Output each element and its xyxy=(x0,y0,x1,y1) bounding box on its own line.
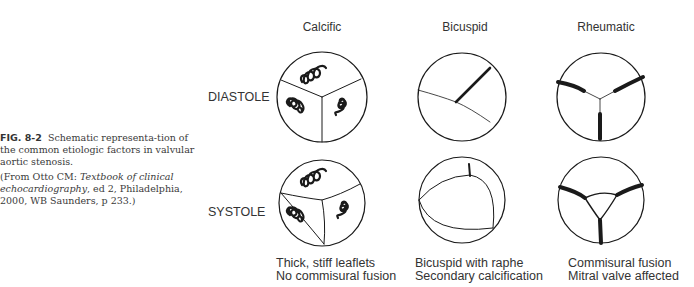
orifice-edge xyxy=(585,193,617,198)
calcification-nodule-icon xyxy=(337,202,347,219)
raphe-line xyxy=(456,68,490,102)
fused-commissure xyxy=(558,82,584,91)
valve-diagram xyxy=(0,0,694,287)
commissure-line xyxy=(322,79,361,97)
fused-commissure xyxy=(560,187,585,198)
fused-commissure xyxy=(615,77,643,91)
commissure-line xyxy=(600,91,615,99)
valve-bicuspid-diastole xyxy=(418,53,506,141)
calcification-nodule-icon xyxy=(335,99,345,116)
calcification-nodule-icon xyxy=(301,66,326,83)
leaflet-edge xyxy=(419,200,493,229)
valve-rheumatic-systole xyxy=(558,157,644,243)
valve-calcific-diastole xyxy=(277,52,367,142)
leaflet-edge xyxy=(281,184,360,200)
valve-rheumatic-diastole xyxy=(557,53,645,141)
calcification-nodule-icon xyxy=(301,169,326,186)
commissure-line xyxy=(584,91,600,99)
orifice-edge xyxy=(600,195,617,220)
commissure-line xyxy=(418,90,490,122)
fused-commissure xyxy=(617,185,642,195)
valve-calcific-systole xyxy=(279,160,365,246)
valve-bicuspid-systole xyxy=(419,157,505,243)
calcification-nodule-icon xyxy=(287,207,303,221)
leaflet-edge xyxy=(322,200,325,244)
valve-outline xyxy=(279,160,365,246)
leaflet-edge xyxy=(419,175,494,228)
orifice-edge xyxy=(585,198,600,220)
fused-commissure xyxy=(600,220,601,243)
raphe-line xyxy=(469,164,470,176)
calcification-nodule-icon xyxy=(287,98,303,112)
